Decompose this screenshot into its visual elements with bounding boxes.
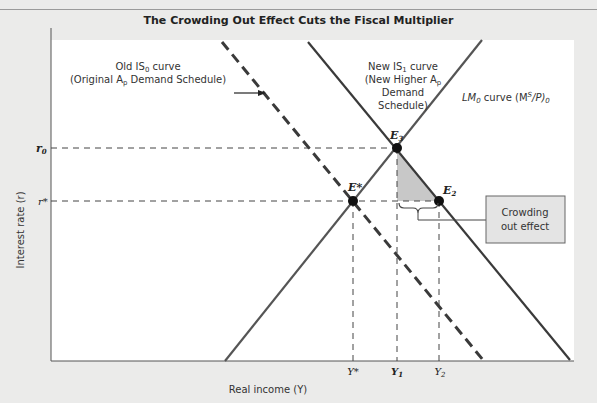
- rstar-tick: r*: [38, 196, 48, 207]
- y2-tick: Y2: [434, 366, 446, 379]
- point-estar: [348, 196, 358, 206]
- x-axis-label: Real income (Y): [229, 384, 308, 395]
- y-axis-label: Interest rate (r): [15, 191, 26, 268]
- r0-tick: r0: [36, 142, 47, 156]
- point-e2: [434, 196, 444, 206]
- estar-label: E*: [347, 181, 362, 194]
- ystar-tick: Y*: [347, 366, 359, 377]
- is1-sublabel3: Schedule): [378, 100, 428, 111]
- box-line1: Crowding: [502, 207, 549, 218]
- crowding-box: [486, 196, 565, 243]
- point-e3: [392, 143, 402, 153]
- is1-sublabel2: Demand: [382, 87, 424, 98]
- lm0-label: LM0 curve (MS/P)0: [462, 91, 550, 105]
- y1-tick: Y1: [391, 366, 403, 379]
- box-line2: out effect: [501, 221, 549, 232]
- chart: Crowding out effect Old IS0 curve (Origi…: [0, 0, 597, 403]
